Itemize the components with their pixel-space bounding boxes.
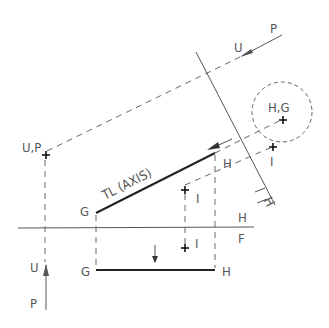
label-h-aux: H — [223, 156, 232, 171]
fold-tick-1 — [255, 188, 265, 192]
label-p-top: P — [270, 21, 277, 36]
fold-line-h-1 — [196, 52, 275, 205]
label-i-right: I — [270, 154, 273, 169]
label-hg: H,G — [268, 100, 290, 115]
label-g-bottom: G — [81, 264, 90, 279]
label-i-bottom: I — [195, 236, 198, 251]
label-u-top: U — [234, 40, 243, 55]
projector-up-dashed — [47, 57, 240, 151]
projection-diagram: H H,G I H TL (AXIS) G H I H F U,P I G H … — [0, 0, 329, 328]
label-h-fold: H — [238, 210, 247, 225]
arrow-aux-icon — [207, 142, 220, 150]
label-h-bottom: H — [222, 264, 231, 279]
label-u-bottom: U — [30, 260, 39, 275]
label-f-fold: F — [238, 231, 245, 246]
label-p-bottom: P — [30, 296, 37, 311]
fold-label-h-slanted: H — [260, 194, 277, 209]
arrow-up-icon — [43, 264, 49, 276]
projector-h-hg — [215, 120, 281, 153]
fold-line-h-f — [18, 227, 254, 228]
arrow-down-icon — [152, 256, 158, 263]
label-up: U,P — [22, 140, 41, 155]
label-g-top: G — [80, 204, 89, 219]
label-i-top: I — [196, 191, 199, 206]
